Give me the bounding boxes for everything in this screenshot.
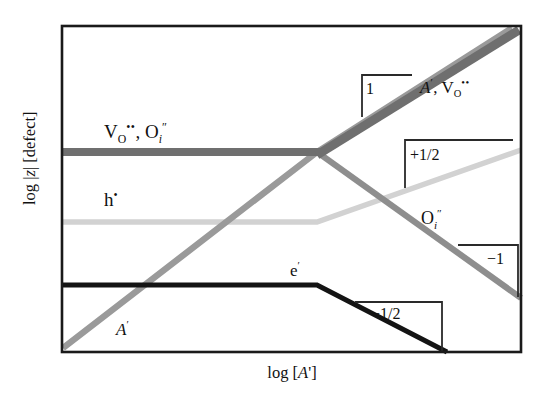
label-hole-sup: • (114, 189, 119, 202)
label-oi-sup: ″ (162, 121, 167, 134)
y-axis-label: log |z| [defect] (22, 58, 39, 258)
label-electron-sup: ′ (298, 260, 301, 271)
figure-canvas: log |z| [defect] log [A'] VO••, Oi″ h• e… (0, 0, 548, 407)
y-axis-label-log: log | (20, 177, 39, 206)
label-acceptor-a: A (116, 320, 126, 339)
label-avo-v-sub: O (454, 88, 462, 99)
label-oi2-O: O (421, 208, 434, 228)
label-vo-sep: , (135, 121, 145, 142)
series-oxygen-interstitial-falling (317, 152, 521, 298)
label-electron: e′ (290, 261, 300, 279)
x-axis-label-var: A (298, 363, 308, 382)
label-oi-O: O (145, 121, 159, 142)
label-acceptor-sup: ′ (126, 319, 129, 330)
label-vacancy-interstitial: VO••, Oi″ (104, 122, 167, 146)
y-axis-label-z: z (20, 170, 39, 176)
label-hole-h: h (104, 189, 114, 210)
slope-label-minus-1: −1 (487, 250, 504, 268)
label-hole: h• (104, 190, 118, 209)
label-avo-V: V (441, 78, 453, 97)
x-axis-label-post: '] (308, 363, 316, 382)
y-axis-label-rest: | [defect] (20, 111, 39, 170)
slope-label-plus-half: +1/2 (410, 146, 439, 164)
label-oi2-sup: ″ (437, 207, 442, 219)
x-axis-label: log [A'] (212, 365, 372, 382)
label-electron-e: e (290, 261, 298, 280)
label-acceptor-vacancy: A′, VO•• (420, 78, 470, 100)
series-hole-line (62, 150, 521, 222)
label-oi2-sub: i (434, 219, 437, 231)
label-avo-a: A (420, 78, 430, 97)
x-axis-label-pre: log [ (267, 363, 298, 382)
label-vo-V: V (104, 121, 118, 142)
brouwer-diagram-plot (0, 0, 548, 407)
slope-label-1: 1 (366, 80, 374, 98)
label-vo-sub: O (118, 133, 127, 146)
label-oi-sub: i (159, 133, 162, 146)
label-avo-v-sup: •• (461, 77, 469, 88)
slope-label-minus-half: −1/2 (371, 305, 400, 323)
label-acceptor: A′ (116, 320, 129, 338)
label-oxygen-interstitial: Oi″ (421, 208, 442, 231)
